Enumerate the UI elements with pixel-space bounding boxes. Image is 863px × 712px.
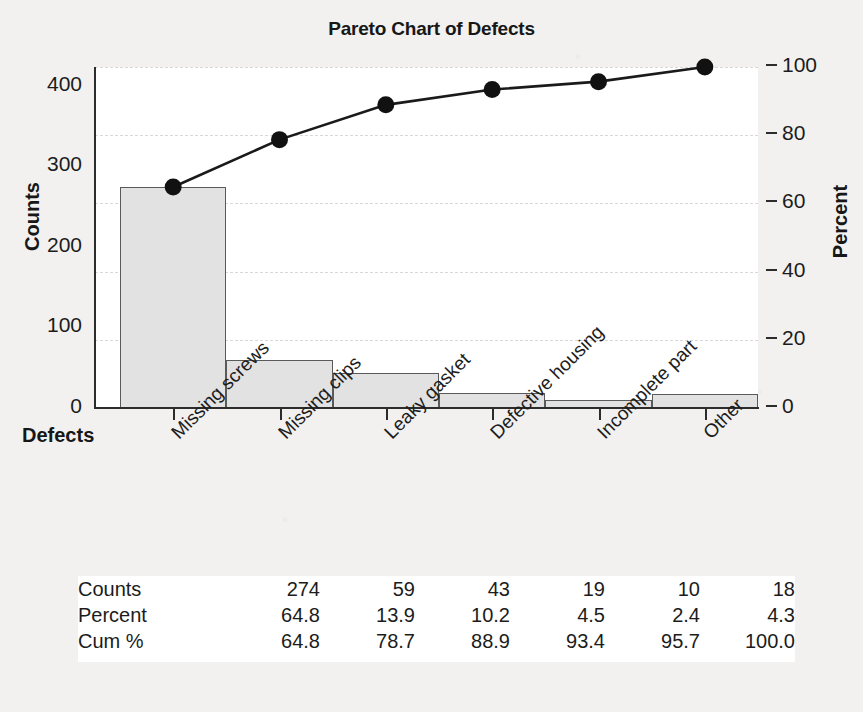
- y-axis-left-tick-label: 400: [4, 72, 82, 96]
- y-axis-left-title: Counts: [21, 147, 44, 287]
- cumulative-line-chart: [95, 67, 758, 408]
- summary-table-cell: 64.8: [225, 602, 320, 628]
- summary-table-cell: 95.7: [605, 628, 700, 654]
- y-axis-right-tick-label: 0: [782, 394, 794, 417]
- summary-table-row-label: Cum %: [78, 628, 225, 654]
- summary-table-cell: 2.4: [605, 602, 700, 628]
- summary-table-cell: 18: [700, 576, 795, 602]
- line-marker: [590, 73, 607, 90]
- y-axis-right-tick-mark: [766, 337, 777, 339]
- cumulative-percent-line: [173, 67, 705, 187]
- y-axis-left-tick-label: 100: [4, 313, 82, 337]
- summary-table-cell: 10: [605, 576, 700, 602]
- y-axis-right-tick: 40: [766, 258, 805, 282]
- x-axis-tick-mark: [386, 409, 388, 420]
- line-marker: [271, 131, 288, 148]
- summary-table-cell: 59: [320, 576, 415, 602]
- chart-title: Pareto Chart of Defects: [0, 18, 863, 40]
- y-axis-right-tick: 20: [766, 326, 805, 350]
- y-axis-right-tick-label: 80: [782, 121, 805, 144]
- y-axis-right-title: Percent: [829, 152, 852, 292]
- y-axis-right-tick-label: 100: [782, 53, 817, 76]
- line-marker: [377, 96, 394, 113]
- summary-table-cell: 274: [225, 576, 320, 602]
- summary-table-cell: 78.7: [320, 628, 415, 654]
- summary-table-row-label: Percent: [78, 602, 225, 628]
- y-axis-right-tick-mark: [766, 405, 777, 407]
- summary-table-cell: 19: [510, 576, 605, 602]
- line-marker: [696, 59, 713, 76]
- summary-table-body: Counts2745943191018Percent64.813.910.24.…: [78, 576, 795, 654]
- y-axis-right-tick: 60: [766, 189, 805, 213]
- summary-table: Counts2745943191018Percent64.813.910.24.…: [78, 576, 795, 662]
- y-axis-right-tick-mark: [766, 269, 777, 271]
- x-axis-title: Defects: [22, 424, 94, 447]
- y-axis-left-tick-label: 0: [4, 394, 82, 418]
- plot-area: [95, 67, 758, 408]
- summary-table-cell: 13.9: [320, 602, 415, 628]
- pareto-chart-figure: Pareto Chart of Defects 0100200300400 Co…: [0, 0, 863, 712]
- x-axis-tick-mark: [599, 409, 601, 420]
- y-axis-right-tick: 0: [766, 394, 794, 418]
- line-marker: [165, 179, 182, 196]
- summary-table-grid: Counts2745943191018Percent64.813.910.24.…: [78, 576, 795, 654]
- summary-table-row-label: Counts: [78, 576, 225, 602]
- x-axis-tick-mark: [705, 409, 707, 420]
- y-axis-right-tick-label: 20: [782, 326, 805, 349]
- summary-table-cell: 93.4: [510, 628, 605, 654]
- line-marker: [484, 81, 501, 98]
- y-axis-right-tick-label: 40: [782, 258, 805, 281]
- summary-table-cell: 4.3: [700, 602, 795, 628]
- summary-table-cell: 4.5: [510, 602, 605, 628]
- y-axis-right-tick-mark: [766, 132, 777, 134]
- y-axis-right-tick-mark: [766, 64, 777, 66]
- summary-table-cell: 43: [415, 576, 510, 602]
- cumulative-percent-markers: [165, 59, 714, 196]
- y-axis-left-spine: [94, 67, 96, 409]
- summary-table-cell: 10.2: [415, 602, 510, 628]
- summary-table-row: Counts2745943191018: [78, 576, 795, 602]
- y-axis-right-tick-label: 60: [782, 189, 805, 212]
- summary-table-row: Cum %64.878.788.993.495.7100.0: [78, 628, 795, 654]
- summary-table-cell: 64.8: [225, 628, 320, 654]
- summary-table-row: Percent64.813.910.24.52.44.3: [78, 602, 795, 628]
- y-axis-right-tick: 80: [766, 121, 805, 145]
- summary-table-cell: 88.9: [415, 628, 510, 654]
- summary-table-cell: 100.0: [700, 628, 795, 654]
- y-axis-right-tick: 100: [766, 53, 817, 77]
- x-axis-tick-mark: [280, 409, 282, 420]
- y-axis-right-tick-mark: [766, 200, 777, 202]
